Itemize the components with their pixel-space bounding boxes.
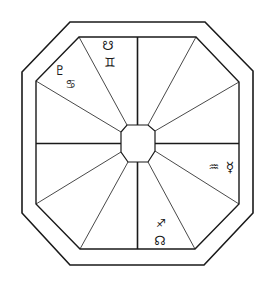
sagittarius-icon: ♐ bbox=[156, 218, 166, 229]
cancer-icon: ♋ bbox=[66, 78, 77, 90]
mercury-icon: ☿ bbox=[226, 160, 235, 174]
center-octagon bbox=[121, 125, 155, 162]
house-cusp-line bbox=[80, 162, 128, 249]
north-node-icon: ☊ bbox=[154, 234, 166, 247]
aquarius-icon: ♒ bbox=[209, 161, 220, 173]
south-node-icon: ☋ bbox=[102, 39, 114, 52]
house-chart bbox=[0, 0, 270, 290]
house-cusp-line bbox=[36, 152, 121, 204]
house-cusp-line bbox=[36, 81, 121, 132]
pluto-icon: ♇ bbox=[54, 64, 66, 77]
house-cusp-line bbox=[148, 37, 196, 125]
gemini-icon: ♊ bbox=[104, 56, 116, 69]
